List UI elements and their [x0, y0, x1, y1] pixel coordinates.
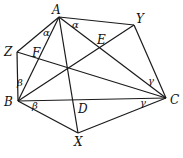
geometry-diagram: A Y Z B C X D E F α α β β γ γ [0, 0, 183, 158]
label-A: A [51, 3, 61, 17]
label-Z: Z [3, 45, 13, 59]
segment-AX [59, 17, 78, 133]
label-F: F [31, 46, 41, 60]
segment-XC [78, 98, 166, 133]
angle-alpha-2: α [43, 27, 50, 38]
label-X: X [73, 135, 83, 149]
segment-YC [134, 25, 166, 98]
segment-AY [59, 17, 134, 25]
label-Y: Y [136, 12, 145, 26]
label-E: E [96, 33, 106, 47]
segment-BX [18, 101, 78, 133]
label-B: B [3, 95, 13, 109]
angle-gamma-1: γ [148, 75, 154, 86]
angle-beta-1: β [16, 77, 23, 88]
label-C: C [170, 93, 179, 107]
angle-gamma-2: γ [140, 97, 146, 108]
angle-alpha-1: α [72, 19, 79, 30]
angle-beta-2: β [31, 100, 38, 111]
label-D: D [77, 102, 88, 116]
